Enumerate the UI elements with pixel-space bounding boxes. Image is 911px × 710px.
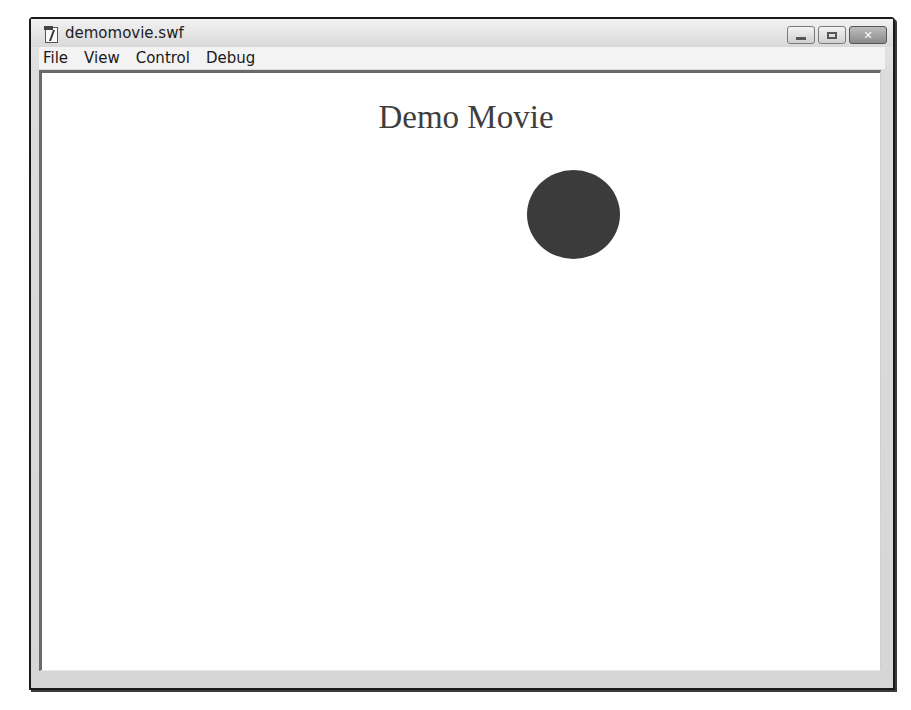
movie-title-text: Demo Movie bbox=[42, 99, 880, 136]
window-controls: ✕ bbox=[787, 26, 887, 44]
maximize-icon bbox=[827, 32, 837, 39]
flash-player-window: demomovie.swf ✕ File View Control Debug … bbox=[29, 17, 895, 690]
minimize-button[interactable] bbox=[787, 26, 815, 44]
menu-file[interactable]: File bbox=[41, 49, 76, 67]
menu-bar: File View Control Debug bbox=[39, 47, 885, 69]
menu-debug[interactable]: Debug bbox=[204, 49, 263, 67]
flash-document-icon bbox=[45, 27, 58, 43]
menu-view[interactable]: View bbox=[82, 49, 128, 67]
menu-control[interactable]: Control bbox=[134, 49, 198, 67]
minimize-icon bbox=[796, 37, 806, 40]
close-icon: ✕ bbox=[863, 29, 872, 42]
window-title: demomovie.swf bbox=[65, 24, 184, 42]
movie-stage[interactable]: Demo Movie bbox=[42, 73, 880, 670]
movie-stage-frame: Demo Movie bbox=[39, 70, 881, 671]
circle-shape bbox=[527, 170, 620, 259]
maximize-button[interactable] bbox=[818, 26, 846, 44]
title-bar[interactable]: demomovie.swf ✕ bbox=[31, 19, 893, 47]
close-button[interactable]: ✕ bbox=[849, 26, 887, 44]
